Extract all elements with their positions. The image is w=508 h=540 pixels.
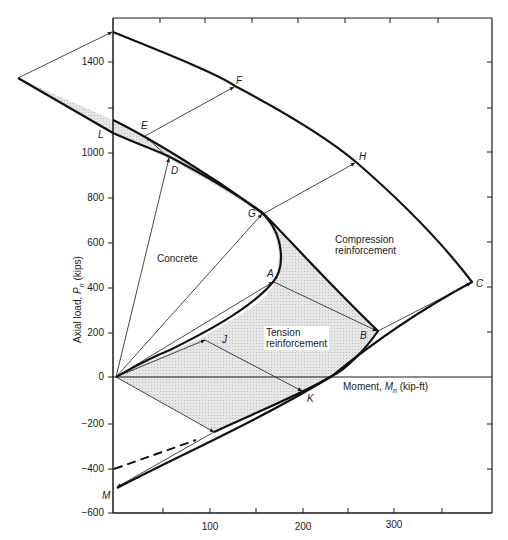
region-label-tension: Tension reinforcement	[264, 326, 329, 350]
y-tick-neg200: −200	[64, 419, 104, 429]
point-label-M: M	[102, 490, 110, 501]
y-tick-1400: 1400	[64, 57, 104, 67]
y-axis-title: Axial load, Pn (kips)	[72, 240, 85, 360]
y-tick-800: 800	[64, 193, 104, 203]
x-axis-title: Moment, Mn (kip-ft)	[343, 381, 428, 396]
x-tick-200: 200	[283, 522, 323, 532]
point-label-K: K	[307, 393, 314, 404]
region-label-concrete: Concrete	[157, 253, 198, 264]
x-tick-300: 300	[374, 520, 414, 530]
point-label-D: D	[171, 165, 178, 176]
y-tick-neg400: −400	[64, 464, 104, 474]
point-label-J: J	[222, 334, 227, 345]
x-tick-100: 100	[190, 522, 230, 532]
point-label-G: G	[248, 208, 256, 219]
point-label-F: F	[236, 75, 242, 86]
point-label-H: H	[359, 151, 366, 162]
y-tick-0: 0	[64, 372, 104, 382]
point-label-A: A	[267, 268, 274, 279]
point-label-E: E	[141, 120, 148, 131]
y-tick-1000: 1000	[64, 148, 104, 158]
point-label-C: C	[476, 278, 483, 289]
point-label-L: L	[98, 129, 104, 140]
y-tick-neg600: −600	[64, 508, 104, 518]
region-label-compression: Compression reinforcement	[335, 234, 396, 256]
point-label-B: B	[360, 330, 367, 341]
